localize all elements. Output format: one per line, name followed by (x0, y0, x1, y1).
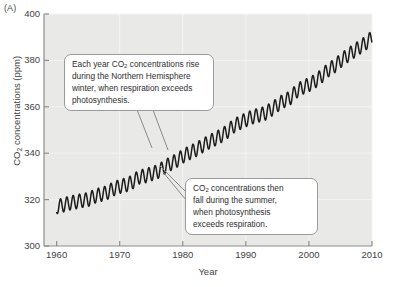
annotation-line: CO2 concentrations then (193, 183, 311, 195)
annotation-callout-winter-rise: Each year CO2 concentrations riseduring … (64, 54, 214, 111)
annotation-line: during the Northern Hemisphere (72, 71, 207, 83)
chart-plot-area (0, 0, 397, 287)
annotation-line: exceeds respiration. (193, 219, 311, 231)
annotation-line: fall during the summer, (193, 195, 311, 207)
annotation-callout-summer-fall: CO2 concentrations thenfall during the s… (185, 178, 318, 235)
annotation-line: winter, when respiration exceeds (72, 83, 207, 95)
annotation-line: Each year CO2 concentrations rise (72, 59, 207, 71)
annotation-line: photosynthesis. (72, 95, 207, 107)
figure-panel-a: (A) CO2 concentrations (ppm) Year 300320… (0, 0, 397, 287)
annotation-line: when photosynthesis (193, 207, 311, 219)
